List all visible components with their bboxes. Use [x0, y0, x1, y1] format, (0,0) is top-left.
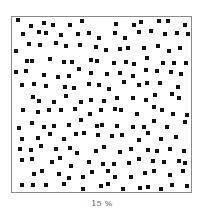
dot: [72, 86, 76, 90]
dot: [32, 82, 36, 86]
dot: [42, 21, 46, 25]
dot: [52, 100, 56, 104]
dot: [155, 69, 159, 73]
dot: [163, 32, 167, 36]
dot: [44, 31, 48, 35]
dot: [30, 157, 34, 161]
dot: [64, 94, 68, 98]
dot: [79, 118, 83, 122]
dot: [132, 23, 136, 27]
dot: [88, 112, 92, 116]
dot: [119, 108, 123, 112]
dot: [100, 123, 104, 127]
dot: [177, 96, 181, 100]
dot: [89, 98, 93, 102]
dot: [137, 138, 141, 142]
dot: [75, 151, 79, 155]
dot: [20, 183, 24, 187]
dot: [167, 49, 171, 53]
dot: [54, 41, 58, 45]
dot: [37, 30, 41, 34]
dot: [95, 59, 99, 63]
dot: [159, 187, 163, 191]
dot: [110, 134, 114, 138]
dot: [37, 99, 41, 103]
dot: [105, 72, 109, 76]
dot: [129, 175, 133, 179]
dot: [146, 185, 150, 189]
dot: [42, 73, 46, 77]
dot: [36, 110, 40, 114]
dot: [87, 82, 91, 86]
dot: [183, 120, 187, 124]
dot: [87, 160, 91, 164]
dot: [101, 162, 105, 166]
dot: [62, 60, 66, 64]
dot: [106, 169, 110, 173]
dot: [16, 18, 20, 22]
dot: [169, 70, 173, 74]
dot: [29, 148, 33, 152]
dot: [76, 32, 80, 36]
dot: [68, 23, 72, 27]
dot: [94, 149, 98, 153]
dot: [144, 68, 148, 72]
dot: [179, 72, 183, 76]
dot: [161, 61, 165, 65]
dot: [29, 24, 33, 28]
dot: [152, 119, 156, 123]
dot: [44, 84, 48, 88]
dot: [77, 67, 81, 71]
dot: [115, 124, 119, 128]
dot: [160, 108, 164, 112]
dot: [81, 175, 85, 179]
dot: [80, 19, 84, 23]
dot: [139, 20, 143, 24]
dot: [137, 157, 141, 161]
dot: [113, 175, 117, 179]
dot: [181, 169, 185, 173]
dot: [149, 29, 153, 33]
dot: [183, 161, 187, 165]
dot: [178, 46, 182, 50]
dot: [118, 71, 122, 75]
dot: [112, 162, 116, 166]
dot: [131, 96, 135, 100]
dot: [158, 81, 162, 85]
dot: [168, 147, 172, 151]
dot: [48, 132, 52, 136]
dot: [123, 36, 127, 40]
dot: [59, 108, 63, 112]
dot: [31, 183, 35, 187]
dot: [97, 83, 101, 87]
dot: [59, 33, 63, 37]
dot: [185, 184, 189, 188]
dot: [54, 147, 58, 151]
dot: [14, 70, 18, 74]
dot: [47, 108, 51, 112]
dot: [151, 159, 155, 163]
dot: [38, 43, 42, 47]
dot: [185, 113, 189, 117]
dot: [95, 124, 99, 128]
dot: [165, 125, 169, 129]
dot: [131, 74, 135, 78]
dot: [87, 31, 91, 35]
dot: [176, 85, 180, 89]
dot: [146, 131, 150, 135]
dot: [17, 126, 21, 130]
dot: [99, 184, 103, 188]
dot: [162, 160, 166, 164]
dot: [113, 107, 117, 111]
dot: [96, 133, 100, 137]
dot: [62, 182, 66, 186]
dot: [89, 71, 93, 75]
dot: [97, 36, 101, 40]
dot: [24, 69, 28, 73]
dot: [175, 31, 179, 35]
dot: [51, 23, 55, 27]
dot: [174, 135, 178, 139]
density-caption: 15 %: [0, 199, 204, 208]
dot: [153, 93, 157, 97]
dot: [48, 57, 52, 61]
